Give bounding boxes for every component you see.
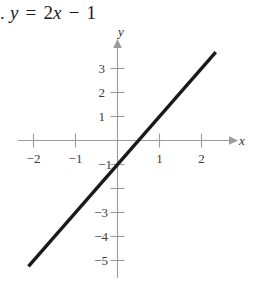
y-tick-label-pos2: 2 xyxy=(99,85,106,100)
x-axis-label: x xyxy=(238,133,245,148)
x-tick-label-pos2: 2 xyxy=(198,151,205,166)
y-axis-group: y 3 2 1 −1 −3 −4 −5 xyxy=(94,24,124,278)
y-tick-label-neg4: −4 xyxy=(94,229,108,244)
x-tick-label-neg2: −2 xyxy=(27,151,41,166)
x-axis-arrowhead xyxy=(229,136,238,145)
y-axis-arrowhead xyxy=(113,39,122,48)
y-tick-label-neg3: −3 xyxy=(94,205,108,220)
y-tick-label-pos1: 1 xyxy=(99,109,106,124)
plotted-line-group xyxy=(28,52,215,266)
line-series-y-equals-2x-minus-1 xyxy=(28,52,215,266)
x-tick-label-pos1: 1 xyxy=(156,151,163,166)
y-tick-label-neg5: −5 xyxy=(94,253,108,268)
graph-figure: . y = 2x − 1 x −2 −1 1 2 y xyxy=(0,0,253,289)
y-axis-label: y xyxy=(116,24,124,39)
y-tick-label-neg1: −1 xyxy=(98,157,112,172)
x-tick-label-neg1: −1 xyxy=(69,151,83,166)
coordinate-plane: x −2 −1 1 2 y 3 xyxy=(0,0,253,289)
y-tick-label-pos3: 3 xyxy=(99,61,106,76)
